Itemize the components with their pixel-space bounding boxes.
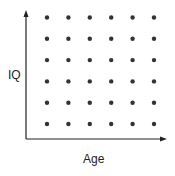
data-point xyxy=(130,37,134,41)
axes xyxy=(24,10,168,142)
data-point xyxy=(66,101,70,105)
data-point xyxy=(66,15,70,19)
data-point xyxy=(88,37,92,41)
data-point xyxy=(152,58,156,62)
data-point xyxy=(130,15,134,19)
data-point xyxy=(152,37,156,41)
data-point xyxy=(130,58,134,62)
data-point xyxy=(66,122,70,126)
data-point xyxy=(88,101,92,105)
data-point xyxy=(109,58,113,62)
data-point xyxy=(45,79,49,83)
data-point xyxy=(88,58,92,62)
data-point xyxy=(66,37,70,41)
data-point xyxy=(45,101,49,105)
data-point xyxy=(109,79,113,83)
data-points xyxy=(45,15,156,126)
data-point xyxy=(45,58,49,62)
data-point xyxy=(45,15,49,19)
data-point xyxy=(152,122,156,126)
data-point xyxy=(88,122,92,126)
data-point xyxy=(45,37,49,41)
data-point xyxy=(109,15,113,19)
data-point xyxy=(130,101,134,105)
data-point xyxy=(109,37,113,41)
data-point xyxy=(66,79,70,83)
x-axis-label: Age xyxy=(83,152,104,166)
data-point xyxy=(88,15,92,19)
x-axis-arrow-icon xyxy=(160,137,167,142)
data-point xyxy=(88,79,92,83)
data-point xyxy=(130,122,134,126)
data-point xyxy=(130,79,134,83)
data-point xyxy=(66,58,70,62)
data-point xyxy=(152,79,156,83)
data-point xyxy=(45,122,49,126)
scatter-plot xyxy=(0,0,175,176)
data-point xyxy=(152,101,156,105)
data-point xyxy=(109,122,113,126)
data-point xyxy=(152,15,156,19)
y-axis-label: IQ xyxy=(8,68,21,82)
y-axis-arrow-icon xyxy=(24,10,29,17)
data-point xyxy=(109,101,113,105)
